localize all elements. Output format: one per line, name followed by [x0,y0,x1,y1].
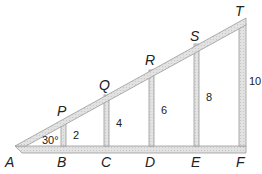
post-ft [239,24,246,146]
label-r: R [145,52,155,68]
post-es [194,44,199,146]
label-t: T [235,3,245,19]
label-q: Q [99,77,110,93]
label-p: P [57,103,67,119]
label-e: E [191,154,201,170]
height-es: 8 [206,91,212,103]
height-dr: 6 [161,104,167,116]
label-s: S [190,28,200,44]
label-a: A [4,154,14,170]
label-c: C [101,154,112,170]
label-b: B [57,154,66,170]
top-beam [15,18,246,146]
label-d: D [145,154,155,170]
label-f: F [236,154,246,170]
bottom-beam [15,146,246,153]
post-dr [149,70,154,146]
height-ft: 10 [249,75,261,87]
angle-label: 30° [42,134,59,146]
height-cq: 4 [116,117,122,129]
height-bp: 2 [73,129,79,141]
truss-diagram: A B C D E F P Q R S T 30° 2 4 6 8 10 [0,0,262,174]
